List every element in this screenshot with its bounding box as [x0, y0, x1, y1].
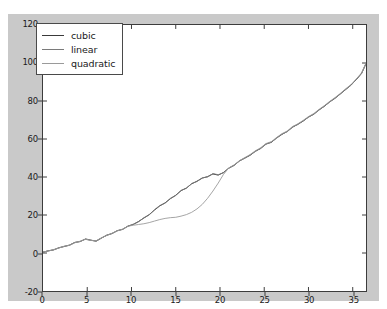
legend-line-swatch — [42, 35, 64, 36]
x-tick-mark — [309, 292, 310, 296]
figure-canvas: -20020406080100120 05101520253035 cubicl… — [8, 14, 379, 301]
x-tick-mark — [220, 292, 221, 296]
legend-label: cubic — [71, 30, 96, 41]
legend-item-linear[interactable]: linear — [42, 42, 115, 56]
x-axis-tick-marks — [42, 292, 367, 297]
legend-item-cubic[interactable]: cubic — [42, 28, 115, 42]
x-tick-mark — [175, 292, 176, 296]
legend-line-swatch — [42, 49, 64, 50]
x-tick-mark — [131, 292, 132, 296]
x-tick-mark — [264, 292, 265, 296]
x-tick-mark — [86, 292, 87, 296]
legend-item-quadratic[interactable]: quadratic — [42, 56, 115, 70]
legend-line-swatch — [42, 63, 64, 64]
legend-label: linear — [71, 44, 97, 55]
series-line-cubic — [43, 64, 366, 252]
x-tick-mark — [353, 292, 354, 296]
chart-legend: cubiclinearquadratic — [36, 23, 123, 75]
legend-label: quadratic — [71, 58, 115, 69]
y-tick-label: -20 — [25, 287, 38, 297]
y-axis-tick-labels: -20020406080100120 — [8, 24, 38, 292]
x-axis-tick-labels: 05101520253035 — [42, 295, 367, 309]
series-line-linear — [43, 63, 366, 251]
series-line-quadratic — [43, 63, 366, 252]
x-tick-mark — [42, 292, 43, 296]
